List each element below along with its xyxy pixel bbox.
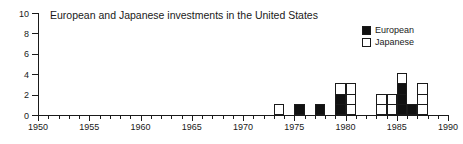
- x-axis-tick-major: [38, 116, 39, 121]
- x-axis-tick-minor: [120, 116, 121, 119]
- x-axis-tick-label: 1965: [182, 123, 202, 132]
- bar-stack: [376, 95, 386, 115]
- bar-cell-japanese: [417, 104, 427, 115]
- x-axis-tick-minor: [284, 116, 285, 119]
- bar-cell-european: [294, 104, 304, 115]
- x-axis-tick-major: [448, 116, 449, 121]
- x-axis-tick-minor: [315, 116, 316, 119]
- x-axis-tick-minor: [428, 116, 429, 119]
- bar-stack: [417, 84, 427, 115]
- bar-stack: [335, 84, 345, 115]
- x-axis-tick-label: 1985: [387, 123, 407, 132]
- x-axis-tick-minor: [182, 116, 183, 119]
- y-axis-tick-label: 0: [24, 111, 29, 120]
- x-axis-tick-minor: [171, 116, 172, 119]
- bar-stack: [346, 84, 356, 115]
- bar-stack: [387, 95, 397, 115]
- bar-cell-european: [407, 104, 417, 115]
- x-axis-tick-label: 1990: [438, 123, 458, 132]
- bar-stack: [397, 74, 407, 115]
- x-axis-tick-label: 1970: [233, 123, 253, 132]
- y-axis-tick-label: 2: [24, 91, 29, 100]
- x-axis-tick-minor: [356, 116, 357, 119]
- x-axis-tick-minor: [376, 116, 377, 119]
- x-axis-tick-major: [346, 116, 347, 121]
- x-axis-tick-minor: [253, 116, 254, 119]
- bar-cell-japanese: [376, 104, 386, 115]
- bar-stack: [274, 105, 284, 115]
- y-axis-tick-label: 6: [24, 50, 29, 59]
- x-axis-tick-minor: [202, 116, 203, 119]
- x-axis-tick-minor: [151, 116, 152, 119]
- bar-cell-european: [397, 104, 407, 115]
- x-axis-tick-minor: [161, 116, 162, 119]
- x-axis-tick-major: [141, 116, 142, 121]
- x-axis-tick-major: [192, 116, 193, 121]
- y-axis-tick-label: 8: [24, 29, 29, 38]
- x-axis-tick-minor: [223, 116, 224, 119]
- bar-cell-japanese: [274, 104, 284, 115]
- x-axis-tick-minor: [130, 116, 131, 119]
- x-axis-tick-minor: [305, 116, 306, 119]
- x-axis-tick-minor: [335, 116, 336, 119]
- x-axis-tick-minor: [325, 116, 326, 119]
- x-axis-tick-minor: [264, 116, 265, 119]
- y-axis-tick-label: 10: [19, 9, 29, 18]
- x-axis-tick-minor: [59, 116, 60, 119]
- plot-area: [38, 13, 448, 115]
- x-axis-tick-label: 1975: [284, 123, 304, 132]
- x-axis-tick-minor: [233, 116, 234, 119]
- x-axis-tick-minor: [407, 116, 408, 119]
- x-axis-tick-minor: [100, 116, 101, 119]
- x-axis-tick-minor: [110, 116, 111, 119]
- x-axis-tick-minor: [79, 116, 80, 119]
- x-axis-tick-major: [397, 116, 398, 121]
- x-axis-tick-minor: [48, 116, 49, 119]
- y-axis-tick-label: 4: [24, 70, 29, 79]
- bar-stack: [407, 105, 417, 115]
- x-axis-tick-major: [243, 116, 244, 121]
- x-axis-tick-major: [294, 116, 295, 121]
- x-axis-tick-major: [89, 116, 90, 121]
- x-axis-tick-minor: [387, 116, 388, 119]
- x-axis-tick-minor: [438, 116, 439, 119]
- x-axis-tick-label: 1960: [130, 123, 150, 132]
- x-axis-tick-label: 1955: [79, 123, 99, 132]
- x-axis-tick-minor: [366, 116, 367, 119]
- x-axis-tick-minor: [69, 116, 70, 119]
- investment-bar-chart: European and Japanese investments in the…: [0, 0, 463, 144]
- x-axis-tick-label: 1950: [28, 123, 48, 132]
- bar-cell-japanese: [387, 104, 397, 115]
- bar-cell-japanese: [346, 104, 356, 115]
- x-axis-tick-minor: [212, 116, 213, 119]
- x-axis-tick-minor: [274, 116, 275, 119]
- x-axis-tick-label: 1980: [335, 123, 355, 132]
- bar-stack: [294, 105, 304, 115]
- x-axis-tick-minor: [417, 116, 418, 119]
- bar-stack: [315, 105, 325, 115]
- bar-cell-european: [315, 104, 325, 115]
- bar-cell-european: [335, 104, 345, 115]
